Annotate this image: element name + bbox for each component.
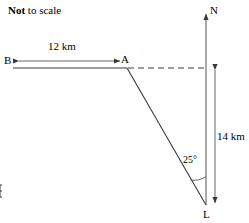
point-label-a: A xyxy=(121,54,129,65)
distance-label-ba: 12 km xyxy=(48,41,76,52)
not-to-scale-note: Not to scale xyxy=(8,5,61,16)
angle-arc-25 xyxy=(191,177,207,181)
point-label-b: B xyxy=(4,55,11,66)
edge-artifact xyxy=(0,185,2,197)
point-label-n: N xyxy=(210,5,218,16)
distance-label-nl: 14 km xyxy=(217,131,245,142)
figure-svg xyxy=(0,0,249,223)
point-label-l: L xyxy=(203,209,210,220)
note-rest: to scale xyxy=(25,4,61,16)
segment-a-to-l xyxy=(127,68,206,205)
angle-label-25: 25° xyxy=(183,155,197,165)
note-emphasis: Not xyxy=(8,4,25,16)
diagram-canvas: Not to scale B A N L 12 km 14 km 25° xyxy=(0,0,249,223)
